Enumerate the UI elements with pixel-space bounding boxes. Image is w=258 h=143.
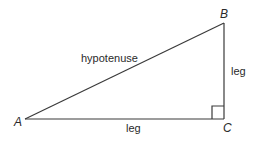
vertical-leg-label: leg <box>231 65 246 77</box>
horizontal-leg-label: leg <box>126 122 141 134</box>
right-triangle-diagram: A B C hypotenuse leg leg <box>0 0 258 143</box>
vertex-label-a: A <box>13 115 22 129</box>
hypotenuse-line <box>25 23 224 119</box>
triangle-shape <box>25 23 224 119</box>
vertex-label-c: C <box>223 121 232 135</box>
vertex-label-b: B <box>220 7 228 21</box>
right-angle-marker-icon <box>212 106 224 119</box>
hypotenuse-label: hypotenuse <box>81 52 138 64</box>
